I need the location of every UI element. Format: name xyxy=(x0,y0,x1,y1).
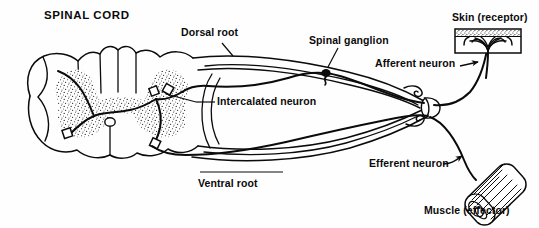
label-intercalated-neuron: Intercalated neuron xyxy=(217,96,316,107)
leader-spinal-ganglion xyxy=(328,48,338,67)
left-lateral-notch xyxy=(38,57,49,141)
label-muscle-effector: Muscle (effector) xyxy=(424,205,510,216)
central-canal xyxy=(105,118,115,126)
skin-receptor-block xyxy=(455,29,521,78)
label-dorsal-root: Dorsal root xyxy=(181,27,238,38)
diagram-canvas: SPINAL CORD Dorsal root Spinal ganglion … xyxy=(0,0,539,228)
label-skin-receptor: Skin (receptor) xyxy=(452,12,528,23)
efferent-neuron-path xyxy=(152,115,476,180)
spinal-ganglion-body xyxy=(321,69,330,85)
label-afferent-neuron: Afferent neuron xyxy=(375,58,455,69)
label-ventral-root: Ventral root xyxy=(198,178,258,189)
leader-dorsal-root xyxy=(222,43,233,56)
label-spinal-ganglion: Spinal ganglion xyxy=(309,35,389,46)
label-efferent-neuron: Efferent neuron xyxy=(369,158,449,169)
reflex-arc-illustration xyxy=(0,0,539,228)
label-spinal-cord: SPINAL CORD xyxy=(44,10,130,22)
leader-afferent-arrow xyxy=(460,62,478,66)
